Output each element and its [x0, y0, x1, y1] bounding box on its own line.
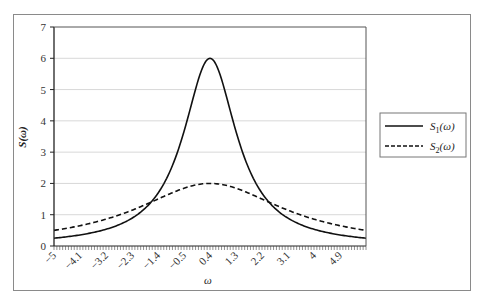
x-axis-title: ω [204, 274, 212, 286]
y-axis-title: S(ω) [16, 126, 29, 147]
y-tick-label: 6 [41, 52, 47, 64]
y-tick-label: 4 [41, 115, 47, 127]
x-tick-label: −3.2 [88, 249, 111, 272]
line-chart: 01234567 −5−4.1−3.2−2.3−1.4−0.50.41.32.2… [0, 0, 487, 307]
y-tick-label: 5 [41, 84, 47, 96]
plot-curves [54, 58, 366, 238]
y-axis-ticks: 01234567 [41, 21, 55, 252]
y-tick-label: 2 [41, 177, 47, 189]
x-tick-label: 3.1 [274, 249, 292, 267]
gridlines [54, 58, 366, 214]
x-tick-label: −2.3 [114, 249, 137, 272]
legend: S1(ω)S2(ω) [380, 113, 466, 157]
x-tick-label: 0.4 [196, 249, 215, 268]
y-tick-label: 3 [41, 146, 47, 158]
x-tick-label: 4.9 [326, 249, 345, 268]
x-tick-label: 4 [306, 249, 319, 262]
series-line [54, 58, 366, 238]
x-tick-label: 1.3 [222, 249, 241, 268]
y-tick-label: 1 [41, 209, 47, 221]
axes [54, 27, 366, 246]
series-line [54, 183, 366, 230]
y-tick-label: 7 [41, 21, 47, 33]
x-axis-ticks: −5−4.1−3.2−2.3−1.4−0.50.41.32.23.144.9 [42, 246, 366, 272]
x-tick-label: 2.2 [248, 249, 266, 267]
x-tick-label: −4.1 [62, 249, 85, 272]
y-tick-label: 0 [41, 240, 47, 252]
x-tick-label: −1.4 [140, 249, 163, 272]
x-tick-label: −0.5 [166, 249, 189, 272]
